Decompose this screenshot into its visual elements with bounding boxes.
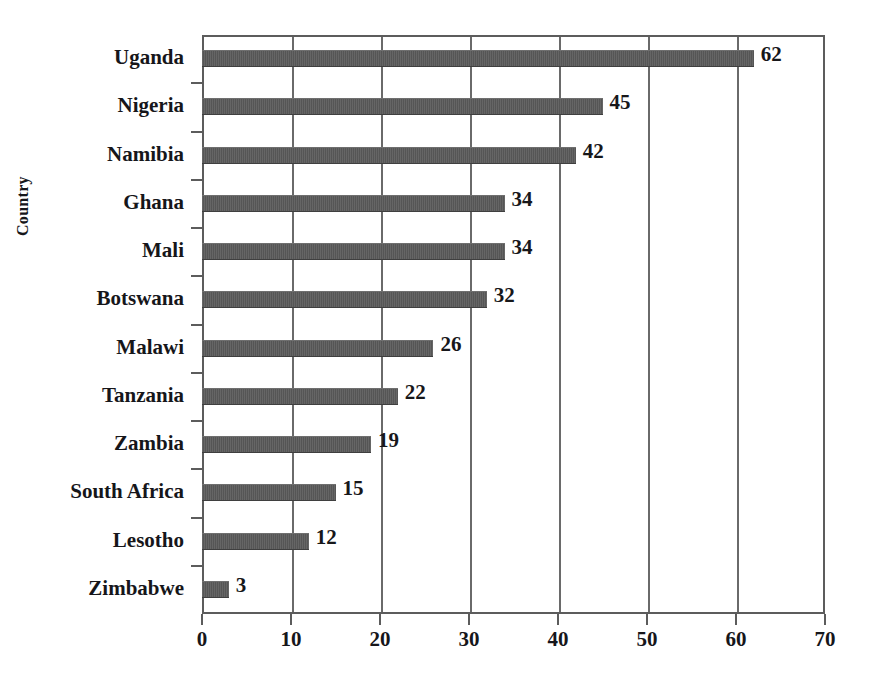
y-axis-category-label: Nigeria bbox=[0, 95, 184, 116]
y-axis-tick bbox=[191, 131, 202, 133]
bar bbox=[202, 533, 309, 550]
y-axis-category-label: Malawi bbox=[0, 337, 184, 358]
bar-row: 19 bbox=[202, 421, 825, 469]
y-axis-category-label: Zimbabwe bbox=[0, 578, 184, 599]
bar bbox=[202, 484, 336, 501]
bar-value-label: 34 bbox=[512, 189, 533, 210]
x-axis-tick-label: 10 bbox=[256, 629, 326, 650]
y-axis-tick bbox=[191, 372, 202, 374]
bar-value-label: 62 bbox=[761, 44, 782, 65]
y-axis-category-label: Uganda bbox=[0, 47, 184, 68]
y-axis-tick bbox=[191, 324, 202, 326]
x-axis-tick bbox=[557, 614, 559, 625]
y-axis-category-label: Mali bbox=[0, 240, 184, 261]
y-axis-tick bbox=[191, 468, 202, 470]
y-axis-tick bbox=[191, 565, 202, 567]
bar-value-label: 42 bbox=[583, 141, 604, 162]
bar-value-label: 34 bbox=[512, 237, 533, 258]
x-axis-tick-label: 60 bbox=[701, 629, 771, 650]
bar-row: 45 bbox=[202, 83, 825, 131]
bar-value-label: 45 bbox=[610, 92, 631, 113]
bar-value-label: 22 bbox=[405, 382, 426, 403]
bar bbox=[202, 388, 398, 405]
x-axis-tick-label: 40 bbox=[523, 629, 593, 650]
bar-row: 32 bbox=[202, 276, 825, 324]
bar-value-label: 26 bbox=[440, 334, 461, 355]
bar-row: 42 bbox=[202, 132, 825, 180]
bar bbox=[202, 291, 487, 308]
bar-chart: UgandaNigeriaNamibiaGhanaMaliBotswanaMal… bbox=[0, 0, 870, 687]
x-axis-tick bbox=[735, 614, 737, 625]
x-axis-tick-label: 20 bbox=[345, 629, 415, 650]
clipped-text-artifact bbox=[0, 0, 870, 14]
x-axis-tick bbox=[201, 614, 203, 625]
bar-row: 22 bbox=[202, 373, 825, 421]
bar bbox=[202, 581, 229, 598]
bar-value-label: 32 bbox=[494, 285, 515, 306]
x-axis-tick bbox=[468, 614, 470, 625]
y-axis-tick bbox=[191, 179, 202, 181]
y-axis-tick bbox=[191, 275, 202, 277]
y-axis-tick bbox=[191, 420, 202, 422]
bar-value-label: 3 bbox=[236, 575, 247, 596]
bar bbox=[202, 50, 754, 67]
bar bbox=[202, 436, 371, 453]
bar-value-label: 12 bbox=[316, 527, 337, 548]
x-axis-tick-label: 70 bbox=[790, 629, 860, 650]
bar bbox=[202, 147, 576, 164]
bar bbox=[202, 98, 603, 115]
x-axis-tick-label: 50 bbox=[612, 629, 682, 650]
bar bbox=[202, 340, 433, 357]
x-axis-tick-label: 30 bbox=[434, 629, 504, 650]
y-axis-category-label: Lesotho bbox=[0, 530, 184, 551]
y-axis-tick bbox=[191, 517, 202, 519]
bar bbox=[202, 243, 505, 260]
y-axis-tick bbox=[191, 227, 202, 229]
y-axis-category-label: Botswana bbox=[0, 288, 184, 309]
bar-row: 34 bbox=[202, 180, 825, 228]
bar-row: 62 bbox=[202, 35, 825, 83]
y-axis-category-label: Zambia bbox=[0, 433, 184, 454]
bar-row: 26 bbox=[202, 325, 825, 373]
y-axis-category-label: Tanzania bbox=[0, 385, 184, 406]
bars-layer: 62454234343226221915123 bbox=[202, 35, 825, 614]
y-axis-labels: UgandaNigeriaNamibiaGhanaMaliBotswanaMal… bbox=[0, 35, 196, 614]
x-axis-tick bbox=[646, 614, 648, 625]
bar bbox=[202, 195, 505, 212]
x-axis-tick bbox=[379, 614, 381, 625]
y-axis-tick bbox=[191, 82, 202, 84]
bar-row: 34 bbox=[202, 228, 825, 276]
bar-row: 15 bbox=[202, 469, 825, 517]
y-axis-category-label: Namibia bbox=[0, 144, 184, 165]
bar-value-label: 19 bbox=[378, 430, 399, 451]
y-axis-category-label: South Africa bbox=[0, 481, 184, 502]
x-axis-tick bbox=[290, 614, 292, 625]
x-axis-tick bbox=[824, 614, 826, 625]
y-axis-title: Country bbox=[14, 176, 32, 236]
bar-row: 12 bbox=[202, 518, 825, 566]
bar-value-label: 15 bbox=[343, 478, 364, 499]
bar-row: 3 bbox=[202, 566, 825, 614]
x-axis-tick-label: 0 bbox=[167, 629, 237, 650]
